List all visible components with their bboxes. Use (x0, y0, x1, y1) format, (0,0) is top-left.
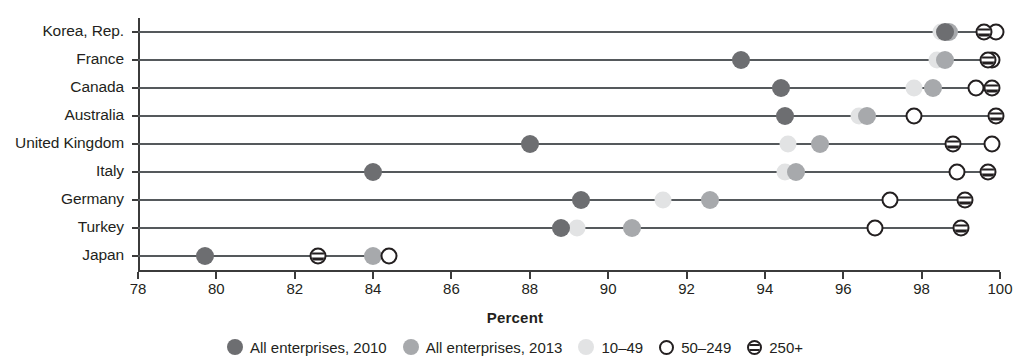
data-point-filled-dark-circle-icon (936, 23, 954, 41)
data-row (138, 59, 1000, 61)
x-tick-label: 96 (835, 280, 852, 297)
x-tick-mark (999, 272, 1001, 279)
data-point-filled-dark-circle-icon (521, 135, 539, 153)
data-point-filled-light-circle-icon (780, 136, 797, 153)
filled-light-circle-icon (578, 339, 594, 355)
category-label: Germany (61, 191, 124, 207)
legend-item[interactable]: All enterprises, 2010 (227, 339, 387, 356)
data-row (138, 199, 1000, 201)
data-point-open-circle-icon (984, 136, 1001, 153)
category-label: Turkey (78, 219, 124, 235)
category-label: Canada (70, 79, 124, 95)
open-circle-icon (659, 340, 674, 355)
data-point-striped-circle-icon (952, 220, 969, 237)
data-point-filled-medium-circle-icon (811, 135, 829, 153)
data-point-filled-dark-circle-icon (572, 191, 590, 209)
x-tick-label: 94 (757, 280, 774, 297)
data-point-striped-circle-icon (980, 52, 997, 69)
data-point-striped-circle-icon (310, 248, 327, 265)
x-tick-mark (842, 272, 844, 279)
x-tick-label: 90 (600, 280, 617, 297)
x-tick-label: 80 (208, 280, 225, 297)
data-point-open-circle-icon (948, 164, 965, 181)
data-point-open-circle-icon (380, 248, 397, 265)
data-row (138, 87, 1000, 89)
legend-item[interactable]: 250+ (747, 339, 803, 356)
x-tick-label: 82 (286, 280, 303, 297)
x-tick-mark (607, 272, 609, 279)
category-label: Australia (65, 107, 124, 123)
data-point-filled-medium-circle-icon (858, 107, 876, 125)
data-row (138, 143, 1000, 145)
row-connector-line (138, 31, 996, 33)
data-point-filled-dark-circle-icon (732, 51, 750, 69)
legend-label: 250+ (769, 339, 803, 356)
x-tick-label: 84 (365, 280, 382, 297)
x-tick-mark (294, 272, 296, 279)
data-point-open-circle-icon (866, 220, 883, 237)
dot-plot-chart: Korea, Rep.FranceCanadaAustraliaUnited K… (0, 0, 1030, 361)
x-tick-mark (529, 272, 531, 279)
category-axis-labels: Korea, Rep.FranceCanadaAustraliaUnited K… (0, 18, 132, 270)
data-row (138, 227, 1000, 229)
data-point-filled-dark-circle-icon (196, 247, 214, 265)
data-point-filled-light-circle-icon (568, 220, 585, 237)
filled-medium-circle-icon (403, 339, 419, 355)
data-point-filled-light-circle-icon (905, 80, 922, 97)
data-point-filled-dark-circle-icon (776, 107, 794, 125)
x-tick-mark (450, 272, 452, 279)
legend-item[interactable]: All enterprises, 2013 (403, 339, 563, 356)
data-point-striped-circle-icon (956, 192, 973, 209)
row-connector-line (138, 199, 965, 201)
row-connector-line (138, 87, 992, 89)
x-tick-mark (137, 272, 139, 279)
x-tick-label: 100 (987, 280, 1012, 297)
x-tick-mark (215, 272, 217, 279)
x-tick-label: 98 (913, 280, 930, 297)
x-tick-label: 92 (678, 280, 695, 297)
data-point-open-circle-icon (882, 192, 899, 209)
row-connector-line (138, 171, 988, 173)
data-point-striped-circle-icon (988, 108, 1005, 125)
row-connector-line (138, 227, 961, 229)
data-point-filled-medium-circle-icon (701, 191, 719, 209)
data-point-striped-circle-icon (944, 136, 961, 153)
legend-item[interactable]: 50–249 (659, 339, 731, 356)
x-tick-mark (764, 272, 766, 279)
data-point-filled-medium-circle-icon (623, 219, 641, 237)
x-tick-mark (686, 272, 688, 279)
category-label: Italy (96, 163, 124, 179)
legend-label: 50–249 (681, 339, 731, 356)
data-point-filled-dark-circle-icon (552, 219, 570, 237)
x-tick-mark (372, 272, 374, 279)
legend-label: 10–49 (601, 339, 643, 356)
data-point-filled-light-circle-icon (655, 192, 672, 209)
data-point-open-circle-icon (968, 80, 985, 97)
striped-circle-icon (747, 340, 762, 355)
data-point-open-circle-icon (905, 108, 922, 125)
data-row (138, 31, 1000, 33)
data-point-filled-medium-circle-icon (924, 79, 942, 97)
x-tick-label: 88 (521, 280, 538, 297)
x-tick-mark (921, 272, 923, 279)
data-point-filled-medium-circle-icon (936, 51, 954, 69)
data-point-filled-dark-circle-icon (772, 79, 790, 97)
plot-area (138, 18, 1000, 270)
data-point-filled-medium-circle-icon (787, 163, 805, 181)
legend-label: All enterprises, 2013 (426, 339, 563, 356)
data-point-striped-circle-icon (976, 24, 993, 41)
filled-dark-circle-icon (227, 339, 243, 355)
category-label: Korea, Rep. (42, 23, 124, 39)
x-tick-label: 86 (443, 280, 460, 297)
category-label: United Kingdom (15, 135, 124, 151)
legend-label: All enterprises, 2010 (250, 339, 387, 356)
category-label: Japan (82, 247, 124, 263)
legend-item[interactable]: 10–49 (578, 339, 643, 356)
x-tick-label: 78 (130, 280, 147, 297)
data-point-striped-circle-icon (980, 164, 997, 181)
data-point-striped-circle-icon (984, 80, 1001, 97)
row-connector-line (138, 255, 389, 257)
category-label: France (76, 51, 124, 67)
data-row (138, 171, 1000, 173)
data-row (138, 115, 1000, 117)
